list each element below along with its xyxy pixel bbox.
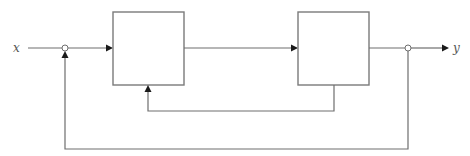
arrowhead-into-block2 — [291, 45, 298, 52]
arrowhead-into-block1 — [106, 45, 113, 52]
input-label-x: x — [13, 41, 20, 55]
block-2 — [298, 12, 369, 85]
inner-feedback-path — [148, 85, 334, 111]
block-diagram: x y — [0, 0, 470, 156]
output-label-y: y — [452, 41, 460, 55]
block-1 — [113, 12, 184, 85]
takeoff-point — [405, 45, 411, 51]
arrowhead-output — [442, 45, 449, 52]
arrowhead-inner-feedback — [145, 85, 152, 92]
summing-junction — [62, 45, 68, 51]
arrowhead-outer-feedback — [62, 51, 69, 58]
